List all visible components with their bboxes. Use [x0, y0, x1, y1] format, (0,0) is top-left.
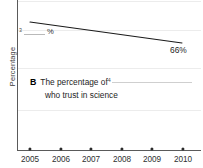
- x-tick-label-2010: 2010: [174, 155, 192, 164]
- footnote-marker-4: 4: [108, 77, 111, 83]
- x-tick-label-2008: 2008: [113, 155, 131, 164]
- end-value-label: 66%: [170, 45, 187, 55]
- x-tick-label-2007: 2007: [82, 155, 100, 164]
- question-line-1: BThe percentage of4: [30, 77, 192, 90]
- question-text-1: The percentage of: [40, 77, 107, 87]
- question-block: BThe percentage of4 who trust in science: [30, 77, 192, 101]
- answer-blank-3[interactable]: [24, 34, 45, 35]
- x-tick-label-2006: 2006: [52, 155, 70, 164]
- x-tick-label-2005: 2005: [21, 155, 39, 164]
- answer-blank-4[interactable]: [112, 82, 192, 83]
- x-tick-label-2009: 2009: [143, 155, 161, 164]
- start-value-annotation: 3 %: [19, 27, 54, 36]
- question-letter: B: [30, 77, 36, 87]
- chart-worksheet: Percentage 3 % 66% BThe percentage of4 w…: [0, 0, 203, 168]
- footnote-marker-3: 3: [19, 27, 22, 33]
- question-line-2: who trust in science: [45, 90, 192, 102]
- percent-sign: %: [47, 27, 54, 36]
